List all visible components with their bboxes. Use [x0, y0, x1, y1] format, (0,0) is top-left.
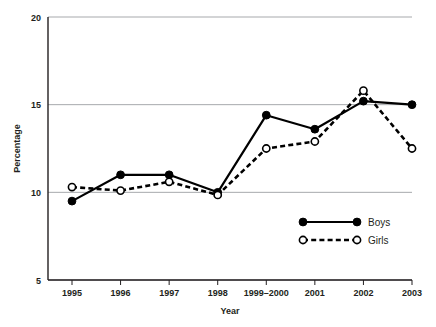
legend-label-boys: Boys	[368, 217, 390, 228]
x-tick-label-7: 2003	[402, 288, 422, 298]
data-point-girls-0	[68, 183, 75, 190]
data-point-girls-1	[117, 187, 124, 194]
data-point-boys-0	[68, 197, 76, 205]
line-chart: 510152019951996199719981999–200020012002…	[0, 0, 436, 327]
y-tick-label-20: 20	[31, 13, 41, 23]
x-tick-label-1: 1996	[111, 288, 131, 298]
x-tick-label-5: 2001	[305, 288, 325, 298]
data-point-girls-6	[360, 87, 367, 94]
data-point-boys-1	[117, 171, 125, 179]
x-tick-label-0: 1995	[62, 288, 82, 298]
data-point-boys-6	[360, 97, 368, 105]
data-point-girls-3	[214, 191, 221, 198]
x-axis-title: Year	[220, 306, 240, 316]
legend-marker-girls-1	[353, 236, 360, 243]
chart-canvas: 510152019951996199719981999–200020012002…	[0, 0, 436, 327]
legend-label-girls: Girls	[368, 235, 389, 246]
series-line-girls	[72, 91, 412, 195]
legend-marker-girls-0	[299, 236, 306, 243]
data-point-boys-5	[311, 125, 319, 133]
legend-marker-boys-1	[353, 218, 361, 226]
x-tick-label-6: 2002	[353, 288, 373, 298]
x-tick-label-4: 1999–2000	[244, 288, 289, 298]
y-tick-label-10: 10	[31, 188, 41, 198]
data-point-girls-2	[166, 178, 173, 185]
x-tick-label-3: 1998	[208, 288, 228, 298]
data-point-girls-7	[408, 145, 415, 152]
x-tick-label-2: 1997	[159, 288, 179, 298]
data-point-boys-7	[408, 101, 416, 109]
y-tick-label-15: 15	[31, 100, 41, 110]
data-point-girls-5	[311, 138, 318, 145]
data-point-girls-4	[263, 145, 270, 152]
y-axis-title: Percentage	[12, 124, 22, 173]
y-tick-label-5: 5	[36, 276, 41, 286]
legend-marker-boys-0	[299, 218, 307, 226]
data-point-boys-4	[262, 111, 270, 119]
series-line-boys	[72, 101, 412, 201]
